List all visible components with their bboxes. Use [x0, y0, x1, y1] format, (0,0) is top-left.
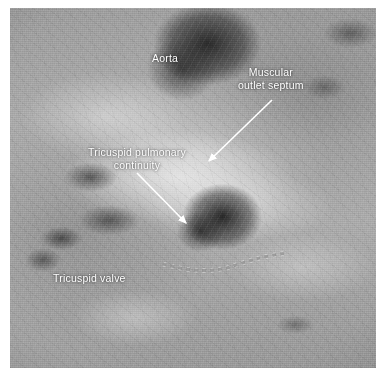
label-tricuspid-pulmonary-continuity: Tricuspid pulmonary continuity: [88, 146, 186, 171]
arrow-muscular-outlet-septum: [209, 100, 272, 161]
figure-container: Aorta Muscular outlet septum Tricuspid p…: [0, 0, 386, 380]
label-muscular-outlet-septum: Muscular outlet septum: [238, 66, 304, 91]
tricuspid-valve-hinge-line-highlight: [163, 253, 287, 271]
annotation-overlay: Aorta Muscular outlet septum Tricuspid p…: [0, 0, 386, 380]
arrow-tricuspid-pulmonary-continuity: [137, 173, 186, 223]
label-tricuspid-valve: Tricuspid valve: [53, 272, 126, 285]
annotation-arrows: [0, 0, 386, 380]
label-aorta: Aorta: [152, 52, 178, 65]
